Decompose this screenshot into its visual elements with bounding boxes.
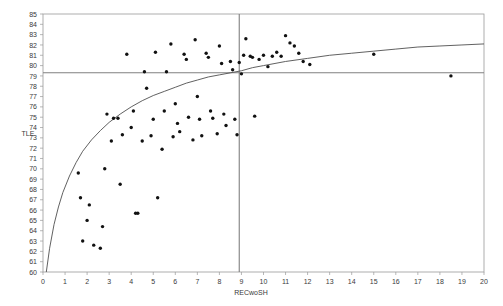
data-point: [284, 34, 287, 37]
data-point: [169, 42, 172, 45]
y-tick-label: 70: [29, 165, 37, 172]
x-tick-label: 7: [195, 278, 199, 285]
data-point: [257, 58, 260, 61]
y-tick-label: 84: [29, 21, 37, 28]
data-point: [204, 52, 207, 55]
x-tick-label: 14: [348, 278, 356, 285]
x-tick-label: 13: [326, 278, 334, 285]
chart-background: [0, 0, 503, 306]
data-point: [308, 63, 311, 66]
data-point: [152, 118, 155, 121]
y-tick-label: 66: [29, 207, 37, 214]
y-tick-label: 67: [29, 196, 37, 203]
x-tick-label: 9: [239, 278, 243, 285]
data-point: [233, 118, 236, 121]
data-point: [301, 60, 304, 63]
x-tick-label: 19: [458, 278, 466, 285]
data-point: [211, 117, 214, 120]
x-tick-label: 15: [370, 278, 378, 285]
data-point: [174, 102, 177, 105]
y-tick-label: 62: [29, 248, 37, 255]
data-point: [449, 74, 452, 77]
data-point: [143, 70, 146, 73]
x-tick-label: 12: [304, 278, 312, 285]
x-tick-label: 17: [414, 278, 422, 285]
data-point: [79, 196, 82, 199]
data-point: [103, 167, 106, 170]
y-tick-label: 76: [29, 103, 37, 110]
y-tick-label: 81: [29, 52, 37, 59]
y-tick-label: 75: [29, 114, 37, 121]
x-tick-label: 3: [107, 278, 111, 285]
data-point: [154, 50, 157, 53]
data-point: [240, 72, 243, 75]
x-tick-label: 11: [282, 278, 289, 285]
data-point: [222, 112, 225, 115]
data-point: [193, 38, 196, 41]
y-tick-label: 64: [29, 227, 37, 234]
data-point: [271, 55, 274, 58]
y-tick-label: 61: [29, 258, 37, 265]
y-tick-label: 85: [29, 11, 37, 18]
y-tick-label: 65: [29, 217, 37, 224]
data-point: [145, 87, 148, 90]
data-point: [121, 133, 124, 136]
data-point: [209, 109, 212, 112]
data-point: [218, 44, 221, 47]
data-point: [149, 134, 152, 137]
data-point: [293, 44, 296, 47]
data-point: [101, 225, 104, 228]
data-point: [136, 211, 139, 214]
data-point: [244, 37, 247, 40]
data-point: [171, 135, 174, 138]
x-tick-label: 6: [173, 278, 177, 285]
x-tick-label: 8: [217, 278, 221, 285]
data-point: [112, 117, 115, 120]
x-axis-title: RECwoSH: [234, 289, 267, 296]
y-tick-label: 60: [29, 269, 37, 276]
data-point: [182, 53, 185, 56]
data-point: [220, 62, 223, 65]
x-tick-label: 16: [392, 278, 400, 285]
data-point: [231, 68, 234, 71]
x-tick-label: 0: [41, 278, 45, 285]
data-point: [200, 134, 203, 137]
data-point: [191, 138, 194, 141]
y-tick-label: 77: [29, 93, 37, 100]
data-point: [81, 239, 84, 242]
data-point: [163, 109, 166, 112]
y-tick-label: 80: [29, 62, 37, 69]
data-point: [118, 183, 121, 186]
data-point: [116, 117, 119, 120]
data-point: [165, 70, 168, 73]
data-point: [88, 203, 91, 206]
data-point: [156, 196, 159, 199]
data-point: [288, 41, 291, 44]
data-point: [253, 114, 256, 117]
data-point: [372, 53, 375, 56]
y-axis-title: TLE: [22, 130, 35, 137]
data-point: [235, 133, 238, 136]
data-point: [85, 219, 88, 222]
x-tick-label: 2: [85, 278, 89, 285]
data-point: [92, 243, 95, 246]
data-point: [242, 54, 245, 57]
data-point: [105, 112, 108, 115]
data-point: [130, 126, 133, 129]
data-point: [99, 247, 102, 250]
y-tick-label: 83: [29, 31, 37, 38]
y-tick-label: 68: [29, 186, 37, 193]
data-point: [178, 130, 181, 133]
x-tick-label: 20: [480, 278, 488, 285]
data-point: [238, 61, 241, 64]
data-point: [262, 54, 265, 57]
y-tick-label: 71: [29, 155, 37, 162]
x-tick-label: 5: [151, 278, 155, 285]
data-point: [160, 147, 163, 150]
data-point: [275, 50, 278, 53]
data-point: [251, 56, 254, 59]
data-point: [297, 52, 300, 55]
data-point: [132, 109, 135, 112]
data-point: [196, 95, 199, 98]
x-tick-label: 18: [436, 278, 444, 285]
